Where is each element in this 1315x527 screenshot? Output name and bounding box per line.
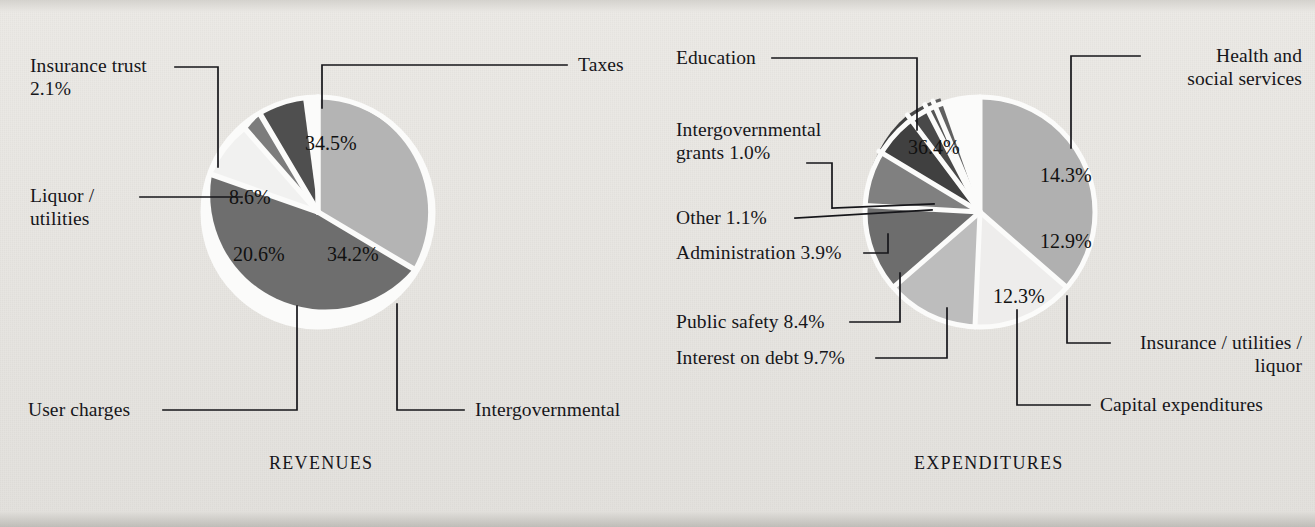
value-capital-expenditures: 12.3%	[993, 285, 1045, 308]
revenues-pie	[201, 95, 435, 329]
label-insurance-utilities-liquor: Insurance / utilities / liquor	[1005, 332, 1302, 377]
value-intergovernmental: 34.2%	[327, 243, 379, 266]
value-user-charges: 20.6%	[233, 243, 285, 266]
label-liquor-utilities: Liquor / utilities	[30, 185, 94, 230]
label-intergovernmental: Intergovernmental	[475, 399, 620, 422]
label-health-social-services: Health and social services	[1005, 45, 1302, 90]
label-other: Other 1.1%	[676, 207, 767, 230]
label-administration: Administration 3.9%	[676, 242, 841, 265]
label-education: Education	[676, 47, 756, 70]
value-health-social-services: 14.3%	[1040, 164, 1092, 187]
value-taxes: 34.5%	[305, 132, 357, 155]
label-public-safety: Public safety 8.4%	[676, 311, 825, 334]
value-liquor-utilities: 8.6%	[229, 186, 271, 209]
expenditures-chart-title: EXPENDITURES	[914, 453, 1064, 474]
label-intergovernmental-grants: Intergovernmental grants 1.0%	[676, 119, 821, 164]
label-insurance-trust: Insurance trust 2.1%	[30, 55, 147, 100]
label-interest-on-debt: Interest on debt 9.7%	[676, 347, 845, 370]
label-capital-expenditures: Capital expenditures	[1100, 394, 1263, 417]
value-education: 36.4%	[908, 136, 960, 159]
label-taxes: Taxes	[578, 54, 624, 77]
label-user-charges: User charges	[28, 399, 130, 422]
value-insurance-utilities-liquor: 12.9%	[1040, 230, 1092, 253]
revenues-chart-title: REVENUES	[269, 453, 373, 474]
